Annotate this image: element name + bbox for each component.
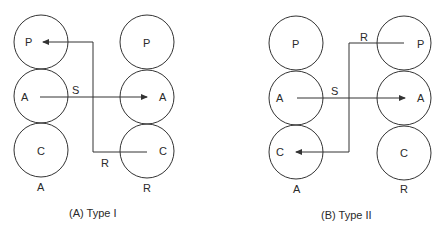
column-label: R [143, 182, 151, 194]
circle-label: A [417, 92, 425, 104]
diagram-canvas: P A C A P A C R S R (A) Type I P A C A [0, 0, 442, 235]
circle-label: A [159, 91, 167, 103]
arrow-label-s: S [331, 85, 338, 97]
column-label: A [293, 183, 301, 195]
arrow-label-r: R [101, 157, 109, 169]
column-r: P A C R [120, 15, 174, 194]
circle-label: P [143, 37, 150, 49]
diagram-type-2: P A C A P A C R S R (B) Type II [269, 16, 431, 221]
circle-label: C [276, 146, 284, 158]
caption: (A) Type I [69, 207, 116, 219]
circle-label: C [37, 145, 45, 157]
circle-label: C [159, 145, 167, 157]
circle-label: A [276, 92, 284, 104]
circle-label: C [400, 147, 408, 159]
circle-label: A [21, 91, 29, 103]
column-label: A [37, 181, 45, 193]
column-a: P A C A [269, 16, 323, 195]
caption: (B) Type II [321, 209, 372, 221]
diagram-type-1: P A C A P A C R S R (A) Type I [14, 15, 174, 219]
column-label: R [400, 183, 408, 195]
circle-label: P [25, 36, 32, 48]
circle-label: P [292, 38, 299, 50]
arrow-label-s: S [72, 84, 79, 96]
circle-label: P [417, 38, 424, 50]
arrow-label-r: R [360, 31, 368, 43]
